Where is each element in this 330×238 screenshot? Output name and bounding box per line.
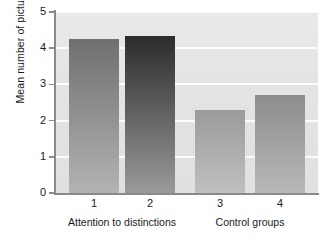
y-tick-mark bbox=[49, 84, 54, 86]
x-tick-label-3: 3 bbox=[205, 197, 235, 209]
bar-4 bbox=[255, 95, 305, 193]
y-tick-label: 5 bbox=[16, 6, 46, 17]
y-axis-label: Mean number of pictures recalled bbox=[12, 0, 28, 114]
y-tick-label: 4 bbox=[16, 42, 46, 53]
y-tick-mark bbox=[49, 11, 54, 13]
y-tick-mark bbox=[49, 47, 54, 49]
x-tick-label-4: 4 bbox=[265, 197, 295, 209]
y-tick-label: 0 bbox=[16, 187, 46, 198]
bar-3 bbox=[195, 110, 245, 193]
bar-chart-figure: Mean number of pictures recalled 012345 … bbox=[0, 0, 330, 238]
y-tick-label: 1 bbox=[16, 151, 46, 162]
y-tick-label: 3 bbox=[16, 78, 46, 89]
x-axis-line bbox=[54, 193, 319, 195]
y-tick-mark bbox=[49, 156, 54, 158]
bar-2 bbox=[125, 36, 175, 193]
y-axis-line bbox=[54, 10, 56, 195]
gridline bbox=[55, 11, 318, 13]
bar-1 bbox=[69, 39, 119, 193]
group-label-1: Control groups bbox=[170, 216, 330, 228]
y-tick-mark bbox=[49, 192, 54, 194]
plot-area bbox=[55, 12, 318, 193]
y-tick-label: 2 bbox=[16, 115, 46, 126]
x-tick-label-2: 2 bbox=[135, 197, 165, 209]
y-tick-mark bbox=[49, 120, 54, 122]
x-tick-label-1: 1 bbox=[79, 197, 109, 209]
